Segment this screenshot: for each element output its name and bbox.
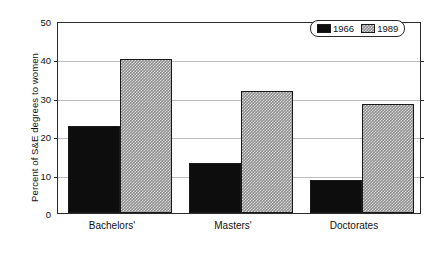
- y-tickmark-40: [54, 61, 58, 62]
- bar-1966-bachelors[interactable]: [68, 126, 120, 213]
- bar-group-doctorates: [310, 23, 414, 213]
- bar-group-masters: [189, 23, 293, 213]
- plot-area: [57, 22, 421, 214]
- legend-label-1989: 1989: [377, 24, 398, 34]
- y-tickmark-20: [54, 138, 58, 139]
- bar-chart-figure: Percent of S&E degrees to women 50 40 30…: [0, 0, 442, 273]
- legend-label-1966: 1966: [333, 24, 354, 34]
- y-tickmark-30: [54, 100, 58, 101]
- x-tick-label-masters: Masters': [173, 220, 293, 231]
- y-tick-label: 0: [29, 210, 51, 220]
- y-tickmark-right-30: [420, 100, 424, 101]
- y-tickmark-right-20: [420, 138, 424, 139]
- legend-swatch-1966-icon: [317, 24, 331, 33]
- y-tick-label: 10: [29, 172, 51, 182]
- bar-1966-doctorates[interactable]: [310, 180, 362, 213]
- y-tick-label: 50: [29, 18, 51, 28]
- bar-1989-doctorates[interactable]: [362, 104, 414, 213]
- legend-item-1966[interactable]: 1966: [317, 24, 354, 34]
- y-tickmark-right-40: [420, 61, 424, 62]
- y-tick-label: 40: [29, 56, 51, 66]
- bar-1989-masters[interactable]: [241, 91, 293, 213]
- y-tick-label: 30: [29, 95, 51, 105]
- bar-1966-masters[interactable]: [189, 163, 241, 213]
- y-axis-tick-labels: 50 40 30 20 10 0: [27, 0, 51, 273]
- legend: 1966 1989: [310, 20, 405, 37]
- x-tick-label-bachelors: Bachelors': [52, 220, 172, 231]
- legend-swatch-1989-icon: [361, 24, 375, 33]
- bar-group-bachelors: [68, 23, 172, 213]
- bar-1989-bachelors[interactable]: [120, 59, 172, 213]
- y-tickmark-10: [54, 177, 58, 178]
- y-tick-label: 20: [29, 133, 51, 143]
- y-tickmark-right-10: [420, 177, 424, 178]
- legend-item-1989[interactable]: 1989: [361, 24, 398, 34]
- x-tick-label-doctorates: Doctorates: [294, 220, 414, 231]
